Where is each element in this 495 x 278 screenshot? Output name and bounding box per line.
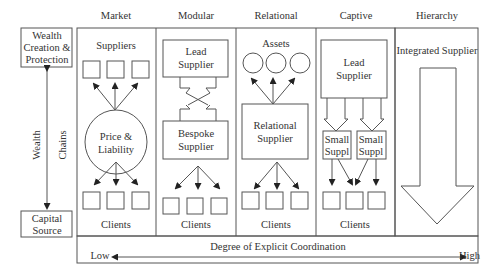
market-clients-label: Clients [101, 219, 131, 230]
header-relational: Relational [254, 10, 297, 21]
relational-assets-label: Assets [262, 38, 289, 49]
header-market: Market [101, 10, 131, 21]
integrated-supplier-arrow [401, 68, 474, 224]
wealth-axis-label: Wealth [31, 130, 42, 160]
modular-top-line1: Lead [186, 46, 208, 57]
header-captive: Captive [340, 10, 373, 21]
modular-center-line2: Supplier [178, 141, 214, 152]
modular-center-line1: Bespoke [178, 128, 215, 139]
modular-clients-label: Clients [181, 219, 211, 230]
small-supplier-1-line2: Suppl [325, 146, 350, 157]
coordination-high: High [459, 250, 481, 261]
wealth-box-line2: Creation & [24, 42, 71, 53]
relational-clients-label: Clients [261, 219, 291, 230]
market-suppliers-label: Suppliers [96, 40, 136, 51]
hierarchy-column [395, 28, 478, 236]
header-hierarchy: Hierarchy [416, 10, 459, 21]
capital-box-line2: Source [32, 225, 61, 236]
market-center-line1: Price & [100, 131, 132, 142]
relational-supplier-box [242, 104, 308, 159]
bespoke-supplier-box [163, 121, 228, 159]
market-center-line2: Liability [98, 144, 135, 155]
relational-center-line2: Supplier [257, 133, 293, 144]
integrated-supplier-label: Integrated Supplier [397, 45, 478, 56]
modular-top-line2: Supplier [178, 59, 214, 70]
coordination-low: Low [90, 250, 110, 261]
small-supplier-2-line2: Suppl [359, 146, 384, 157]
captive-clients-label: Clients [340, 219, 370, 230]
capital-box-line1: Capital [32, 213, 62, 224]
governance-diagram: Wealth Creation & Protection Capital Sou… [0, 0, 495, 278]
captive-lead-supplier-box [321, 40, 387, 98]
captive-top-line2: Supplier [336, 70, 372, 81]
small-supplier-1-line1: Small [325, 134, 350, 145]
wealth-box-line3: Protection [25, 54, 69, 65]
coordination-title: Degree of Explicit Coordination [210, 241, 346, 252]
relational-center-line1: Relational [253, 120, 296, 131]
header-modular: Modular [178, 10, 215, 21]
captive-top-line1: Lead [344, 57, 366, 68]
small-supplier-2-line1: Small [359, 134, 384, 145]
chains-axis-label: Chains [57, 130, 68, 159]
wealth-box-line1: Wealth [32, 30, 62, 41]
